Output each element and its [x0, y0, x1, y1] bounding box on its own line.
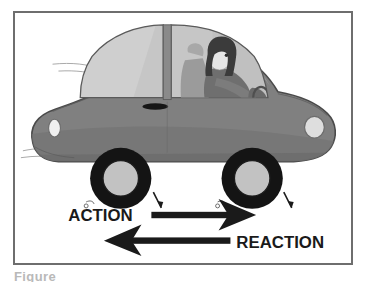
reaction-arrow	[104, 225, 230, 256]
driver-eye	[225, 54, 229, 58]
rear-hub	[103, 161, 139, 196]
rear-taillight	[49, 119, 61, 137]
car	[21, 21, 343, 209]
front-headlight	[305, 116, 325, 138]
figure-root: ACTION REACTION Figure	[0, 0, 367, 283]
door-handle	[142, 103, 168, 110]
scene-illustration: ACTION REACTION	[15, 13, 351, 263]
front-hub	[234, 161, 270, 196]
b-pillar	[163, 25, 171, 100]
rocker-panel	[35, 153, 329, 165]
figure-caption-partial: Figure	[14, 270, 214, 282]
action-label: ACTION	[68, 206, 132, 225]
action-arrow-shaft	[151, 212, 230, 218]
illustration-frame: ACTION REACTION	[13, 11, 353, 265]
reaction-label: REACTION	[236, 233, 324, 252]
reaction-arrow-shaft	[128, 237, 231, 243]
